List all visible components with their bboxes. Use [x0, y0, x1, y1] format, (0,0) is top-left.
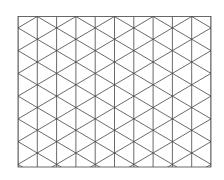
grid-diagonal-line: [0, 0, 224, 139]
grid-diagonal-line: [0, 0, 224, 180]
grid-diagonal-line: [0, 54, 224, 180]
grid-diagonal-line: [0, 0, 224, 180]
grid-diagonal-line: [0, 0, 224, 139]
grid-diagonal-line: [0, 0, 224, 180]
grid-diagonal-line: [0, 167, 224, 180]
grid-canvas: [0, 0, 224, 180]
grid-diagonal-line: [0, 0, 224, 180]
grid-diagonal-line: [0, 145, 224, 180]
grid-diagonal-line: [0, 167, 224, 180]
grid-diagonal-line: [0, 0, 224, 25]
grid-diagonal-line: [0, 0, 224, 180]
grid-diagonal-line: [0, 99, 224, 180]
grid-diagonal-line: [0, 0, 224, 180]
grid-diagonal-line: [0, 0, 224, 180]
grid-diagonal-line: [0, 0, 224, 180]
grid-diagonal-line: [0, 145, 224, 180]
grid-diagonal-line: [0, 0, 224, 180]
grid-diagonal-line: [0, 0, 224, 161]
grid-diagonal-line: [0, 0, 224, 180]
grid-diagonal-line: [0, 0, 224, 180]
grid-diagonal-line: [0, 0, 224, 180]
grid-diagonal-line: [0, 0, 224, 161]
grid-diagonal-line: [0, 0, 224, 2]
isometric-grid: [0, 0, 224, 180]
grid-diagonal-line: [0, 0, 224, 93]
grid-diagonal-line: [0, 0, 224, 180]
grid-diagonal-line: [0, 0, 224, 180]
grid-diagonal-line: [0, 0, 224, 180]
grid-diagonal-line: [0, 54, 224, 180]
grid-diagonal-line: [0, 0, 224, 180]
grid-diagonal-line: [0, 0, 224, 180]
grid-diagonal-line: [0, 0, 224, 180]
grid-diagonal-line: [0, 0, 224, 25]
grid-lines: [0, 0, 224, 180]
grid-diagonal-line: [0, 99, 224, 180]
grid-diagonal-line: [0, 0, 224, 180]
grid-diagonal-line: [0, 0, 224, 180]
grid-diagonal-line: [0, 0, 224, 180]
grid-diagonal-line: [0, 0, 224, 180]
grid-diagonal-line: [0, 0, 224, 180]
grid-diagonal-line: [0, 0, 224, 2]
grid-diagonal-line: [0, 0, 224, 180]
grid-diagonal-line: [0, 0, 224, 93]
grid-diagonal-line: [0, 0, 224, 180]
grid-diagonal-line: [0, 0, 224, 180]
